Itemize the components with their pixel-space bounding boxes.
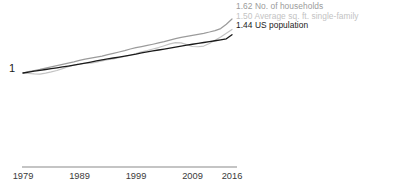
series-paths	[23, 19, 232, 74]
series-line-us-population	[23, 35, 232, 73]
legend-item-us-population: 1.44 US population	[236, 21, 400, 31]
x-tick-label-1999: 1999	[126, 171, 147, 182]
y-axis-base-label: 1	[9, 63, 15, 74]
x-tick-label-1979: 1979	[13, 171, 34, 182]
x-axis-tick-labels: 19791989199920092016	[0, 171, 400, 185]
x-tick-label-2009: 2009	[182, 171, 203, 182]
chart-container: 1 1.62 No. of households 1.50 Average sq…	[0, 0, 400, 192]
series-line-average-sqft	[23, 29, 232, 74]
x-tick-label-1989: 1989	[69, 171, 90, 182]
x-tick-label-2016: 2016	[222, 171, 243, 182]
legend: 1.62 No. of households 1.50 Average sq. …	[236, 2, 400, 31]
